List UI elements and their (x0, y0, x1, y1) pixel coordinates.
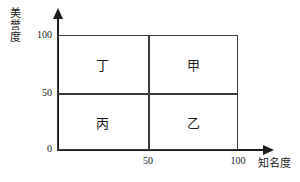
y-axis-arrow-icon (53, 8, 63, 19)
quadrant-cell-bottom-left: 丙 (57, 93, 148, 151)
y-axis-tick-0: 0 (26, 143, 52, 154)
x-axis-title: 知名度 (258, 154, 291, 170)
quadrant-diagram: 丁 甲 丙 乙 100 50 0 50 100 美誉度 知名度 (0, 0, 300, 182)
x-axis-tick-100: 100 (225, 155, 251, 166)
quadrant-cell-top-right: 甲 (148, 35, 239, 93)
y-axis-tick-50: 50 (26, 87, 52, 98)
y-axis-title: 美誉度 (8, 8, 22, 44)
quadrant-cell-bottom-right: 乙 (148, 93, 239, 151)
y-axis-tick-100: 100 (26, 29, 52, 40)
quadrant-cell-top-left: 丁 (57, 35, 148, 93)
x-axis-tick-50: 50 (135, 155, 161, 166)
